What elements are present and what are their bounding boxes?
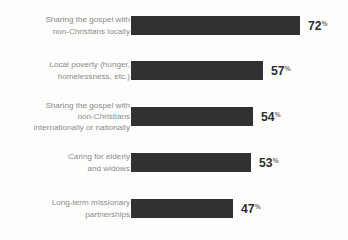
chart-row: Sharing the gospel with non-Christians i… <box>0 107 348 126</box>
bar-value-label: 72% <box>308 19 328 33</box>
percent-symbol: % <box>322 20 328 27</box>
bar-track <box>131 61 263 80</box>
bar-category-label: Sharing the gospel with non-Christians l… <box>16 14 130 36</box>
percent-symbol: % <box>275 111 281 118</box>
bar-value-number: 72 <box>308 19 321 33</box>
bar <box>131 61 263 80</box>
bar-value-label: 47% <box>241 202 261 216</box>
bar-track <box>131 199 233 218</box>
chart-row: Local poverty (hunger, homelessness, etc… <box>0 61 348 80</box>
bar-track <box>131 107 253 126</box>
percent-symbol: % <box>255 203 261 210</box>
bar-track <box>131 16 300 35</box>
bar <box>131 16 300 35</box>
bar-value-label: 54% <box>261 110 281 124</box>
percent-symbol: % <box>273 157 279 164</box>
bar-value-label: 57% <box>271 64 291 78</box>
bar-category-label: Local poverty (hunger, homelessness, etc… <box>16 59 130 81</box>
bar <box>131 107 253 126</box>
chart-row: Caring for elderly and widows 53% <box>0 153 348 172</box>
chart-row: Long-term missionary partnerships 47% <box>0 199 348 218</box>
bar-value-number: 57 <box>271 64 284 78</box>
bar-category-label: Sharing the gospel with non-Christians i… <box>16 100 130 134</box>
percent-symbol: % <box>285 65 291 72</box>
bar <box>131 153 251 172</box>
bar <box>131 199 233 218</box>
bar-value-number: 53 <box>259 156 272 170</box>
bar-value-number: 47 <box>241 202 254 216</box>
chart-row: Sharing the gospel with non-Christians l… <box>0 16 348 35</box>
horizontal-bar-chart: Sharing the gospel with non-Christians l… <box>0 0 348 240</box>
bar-track <box>131 153 251 172</box>
bar-category-label: Long-term missionary partnerships <box>16 197 130 219</box>
bar-category-label: Caring for elderly and widows <box>16 151 130 173</box>
bar-value-label: 53% <box>259 156 279 170</box>
bar-value-number: 54 <box>261 110 274 124</box>
